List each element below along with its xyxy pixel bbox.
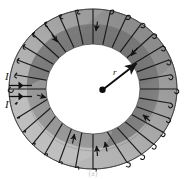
toroid-diagram-canvas: r I I (a) xyxy=(0,0,186,179)
toroid-figure: r I I (a) xyxy=(0,0,186,179)
toroid-inner-hole xyxy=(46,44,140,134)
radius-label: r xyxy=(113,67,117,77)
figure-caption: (a) xyxy=(89,169,98,178)
center-dot xyxy=(99,87,105,93)
